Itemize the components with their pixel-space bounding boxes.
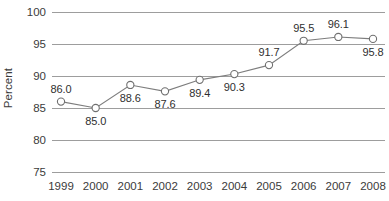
- data-point-marker-2008: [369, 35, 376, 42]
- x-tick-label-2006: 2006: [291, 180, 317, 192]
- data-label-2004: 90.3: [224, 81, 245, 93]
- data-point-marker-2005: [265, 62, 272, 69]
- x-tick-label-2000: 2000: [83, 180, 109, 192]
- y-tick-label-80: 80: [2, 134, 46, 146]
- data-point-marker-2003: [196, 76, 203, 83]
- y-axis-tick-labels: 1009590858075: [0, 0, 46, 201]
- series-polyline: [61, 37, 373, 108]
- data-point-marker-2004: [231, 70, 238, 77]
- data-label-2006: 95.5: [293, 22, 314, 34]
- x-tick-label-2008: 2008: [360, 180, 386, 192]
- y-tick-label-85: 85: [2, 102, 46, 114]
- data-label-2003: 89.4: [189, 87, 210, 99]
- x-tick-label-2007: 2007: [326, 180, 352, 192]
- data-point-marker-2001: [127, 81, 134, 88]
- series-line-percent: [52, 0, 385, 201]
- x-tick-label-2001: 2001: [118, 180, 144, 192]
- x-tick-label-1999: 1999: [48, 180, 74, 192]
- y-tick-label-100: 100: [2, 6, 46, 18]
- data-label-2001: 88.6: [120, 92, 141, 104]
- data-label-2005: 91.7: [258, 46, 279, 58]
- y-tick-label-75: 75: [2, 166, 46, 178]
- data-point-marker-2002: [161, 88, 168, 95]
- data-point-marker-2000: [92, 104, 99, 111]
- data-label-1999: 86.0: [50, 83, 71, 95]
- data-point-marker-2006: [300, 37, 307, 44]
- data-point-marker-1999: [57, 98, 64, 105]
- x-tick-label-2005: 2005: [256, 180, 282, 192]
- x-tick-label-2004: 2004: [222, 180, 248, 192]
- data-label-2000: 85.0: [85, 115, 106, 127]
- data-label-2007: 96.1: [328, 18, 349, 30]
- x-tick-label-2003: 2003: [187, 180, 213, 192]
- y-tick-label-95: 95: [2, 38, 46, 50]
- data-label-2008: 95.8: [362, 46, 383, 58]
- data-label-2002: 87.6: [154, 98, 175, 110]
- plot-area: 86.085.088.687.689.490.391.795.596.195.8: [52, 0, 385, 201]
- y-tick-label-90: 90: [2, 70, 46, 82]
- line-chart: Percent 1009590858075 86.085.088.687.689…: [0, 0, 389, 201]
- data-point-marker-2007: [335, 33, 342, 40]
- x-tick-label-2002: 2002: [152, 180, 178, 192]
